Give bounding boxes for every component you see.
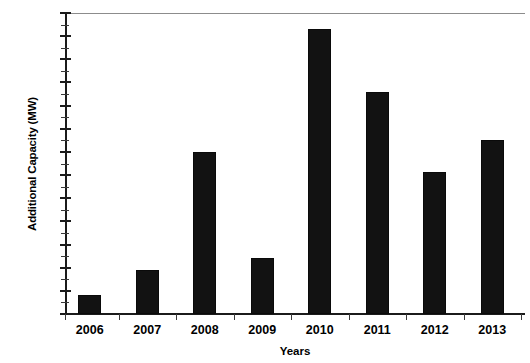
- y-axis-minor-tick: [61, 164, 69, 165]
- x-axis-tick: [65, 314, 66, 320]
- bar: [423, 172, 446, 314]
- bar: [193, 152, 216, 314]
- y-axis-major-tick: [60, 290, 71, 292]
- x-axis-title: Years: [65, 345, 525, 357]
- x-axis-tick: [521, 314, 522, 320]
- bar-chart: Additional Capacity (MW) 050100150200250…: [0, 0, 530, 363]
- y-axis-major-tick: [60, 151, 71, 153]
- x-axis-tick-label: 2012: [405, 323, 465, 337]
- y-axis-major-tick: [60, 128, 71, 130]
- x-axis-tick: [464, 314, 465, 320]
- y-axis-minor-tick: [61, 140, 69, 141]
- x-axis-line: [65, 313, 525, 315]
- bar: [308, 29, 331, 314]
- bar: [366, 92, 389, 314]
- y-axis-minor-tick: [61, 302, 69, 303]
- bar: [136, 270, 159, 314]
- y-axis-minor-tick: [61, 279, 69, 280]
- y-axis-minor-tick: [61, 71, 69, 72]
- x-axis-tick-label: 2006: [60, 323, 120, 337]
- y-axis-minor-tick: [61, 256, 69, 257]
- y-axis-major-tick: [60, 12, 71, 14]
- x-axis-tick-label: 2013: [462, 323, 522, 337]
- x-axis-tick: [119, 314, 120, 320]
- y-axis-major-tick: [60, 267, 71, 269]
- bar: [78, 295, 101, 314]
- y-axis-title: Additional Capacity (MW): [26, 44, 38, 284]
- x-axis-tick-label: 2010: [290, 323, 350, 337]
- x-axis-tick-label: 2007: [117, 323, 177, 337]
- x-axis-tick: [234, 314, 235, 320]
- y-axis-minor-tick: [61, 210, 69, 211]
- y-axis-minor-tick: [61, 48, 69, 49]
- x-axis-tick-label: 2008: [175, 323, 235, 337]
- y-axis-major-tick: [60, 244, 71, 246]
- y-axis-major-tick: [60, 197, 71, 199]
- bar: [481, 140, 504, 314]
- x-axis-tick: [406, 314, 407, 320]
- gridline-top: [65, 13, 525, 14]
- x-axis-tick: [349, 314, 350, 320]
- y-axis-major-tick: [60, 58, 71, 60]
- y-axis-minor-tick: [61, 94, 69, 95]
- x-axis-tick: [291, 314, 292, 320]
- y-axis-major-tick: [60, 174, 71, 176]
- y-axis-major-tick: [60, 105, 71, 107]
- y-axis-major-tick: [60, 35, 71, 37]
- y-axis-major-tick: [60, 220, 71, 222]
- x-axis-tick: [176, 314, 177, 320]
- y-axis-major-tick: [60, 81, 71, 83]
- y-axis-minor-tick: [61, 233, 69, 234]
- x-axis-tick-label: 2011: [347, 323, 407, 337]
- y-axis-minor-tick: [61, 187, 69, 188]
- y-axis-minor-tick: [61, 117, 69, 118]
- y-axis-minor-tick: [61, 25, 69, 26]
- x-axis-tick-label: 2009: [232, 323, 292, 337]
- plot-area: 20062007200820092010201120122013: [65, 13, 525, 314]
- bar: [251, 258, 274, 314]
